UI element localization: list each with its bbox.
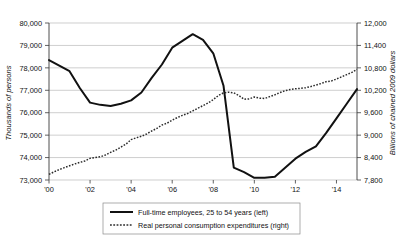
y-axis-right-tick-label: 9,000 — [364, 131, 383, 140]
y-axis-left-tick-label: 80,000 — [19, 19, 42, 28]
legend-label-employees: Full-time employees, 25 to 54 years (lef… — [138, 208, 268, 217]
x-axis-tick-label: '00 — [44, 185, 54, 194]
x-axis-tick-label: '02 — [85, 185, 95, 194]
x-axis-tick-label: '08 — [208, 185, 218, 194]
y-axis-right-tick-label: 8,400 — [364, 153, 383, 162]
x-axis-tick-label: '04 — [126, 185, 136, 194]
y-axis-right-tick-label: 11,400 — [364, 41, 386, 50]
legend-label-consumption: Real personal consumption expenditures (… — [138, 221, 289, 230]
y-axis-left-tick-label: 79,000 — [19, 41, 42, 50]
x-axis-tick-labels: '00'02'04'06'08'10'12'14 — [44, 185, 341, 194]
y-axis-left-tick-label: 75,000 — [19, 131, 42, 140]
y-axis-right-tick-labels: 7,8008,4009,0009,60010,20010,80011,40012… — [364, 19, 387, 185]
y-axis-left-tick-label: 74,000 — [19, 153, 42, 162]
x-axis-tick-label: '14 — [332, 185, 342, 194]
y-axis-right-title: Billions of chained 2009 dollars — [388, 50, 397, 155]
y-axis-left-tick-labels: 73,00074,00075,00076,00077,00078,00079,0… — [19, 19, 42, 185]
chart-legend: Full-time employees, 25 to 54 years (lef… — [103, 203, 300, 234]
x-axis-tick-label: '06 — [167, 185, 177, 194]
y-axis-left-tick-label: 77,000 — [19, 86, 42, 95]
data-series — [49, 34, 357, 178]
y-axis-right-tick-label: 7,800 — [364, 176, 383, 185]
y-axis-left-tick-label: 73,000 — [19, 176, 42, 185]
line-chart: 73,00074,00075,00076,00077,00078,00079,0… — [0, 0, 403, 240]
y-axis-right-tick-label: 9,600 — [364, 108, 383, 117]
series-line-consumption — [49, 69, 357, 174]
x-axis-tick-label: '12 — [291, 185, 301, 194]
axis-lines — [49, 23, 357, 180]
x-axis-tick-label: '10 — [250, 185, 260, 194]
chart-figure: 73,00074,00075,00076,00077,00078,00079,0… — [0, 0, 403, 240]
y-axis-right-tick-label: 10,800 — [364, 64, 387, 73]
y-axis-left-title: Thousands of persons — [4, 65, 13, 140]
y-axis-left-tick-label: 76,000 — [19, 108, 42, 117]
y-axis-left-tick-label: 78,000 — [19, 64, 42, 73]
series-line-employees — [49, 34, 357, 178]
gridlines — [49, 23, 357, 180]
y-axis-right-tick-label: 12,000 — [364, 19, 387, 28]
y-axis-right-tick-label: 10,200 — [364, 86, 387, 95]
